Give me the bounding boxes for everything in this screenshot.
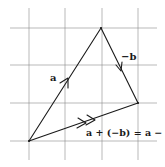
label-a: a	[50, 72, 57, 83]
diagram-canvas: a −b a + (−b) = a − b	[0, 0, 165, 167]
label-neg-b: −b	[121, 51, 136, 62]
label-result: a + (−b) = a − b	[86, 127, 165, 138]
vector-neg-b	[101, 28, 138, 103]
vertex-apex	[100, 27, 102, 29]
vertex-origin	[28, 140, 30, 142]
vertex-right	[137, 102, 139, 104]
vector-diagram: a −b a + (−b) = a − b	[0, 0, 165, 167]
vector-neg-b-line	[101, 28, 138, 103]
